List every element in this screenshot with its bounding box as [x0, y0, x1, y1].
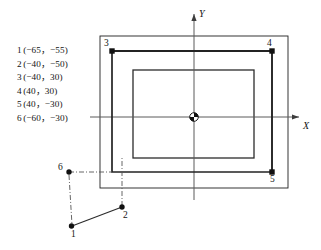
y-axis-arrow-icon — [191, 14, 196, 21]
x-axis-arrow-icon — [292, 114, 299, 119]
approach-line-6-1 — [69, 175, 72, 225]
point-label-2: 2 — [123, 210, 128, 220]
tool-path-3-4-5 — [112, 51, 272, 172]
point-label-6: 6 — [58, 162, 63, 172]
diagram-canvas: 1(−65，−55) 2(−40，−50) 3(−40，30) 4(40，30)… — [0, 0, 321, 250]
point-label-1: 1 — [71, 229, 76, 239]
tool-path-contour-close — [112, 51, 272, 172]
point-marker-4 — [269, 48, 274, 53]
point-marker-3 — [109, 48, 114, 53]
approach-line-1-2 — [72, 207, 122, 226]
origin-marker-icon — [190, 113, 199, 122]
point-label-5: 5 — [270, 174, 275, 184]
x-axis-label: X — [303, 120, 309, 131]
technical-drawing — [0, 0, 321, 250]
y-axis-label: Y — [199, 8, 205, 19]
point-label-3: 3 — [104, 38, 109, 48]
point-label-4: 4 — [267, 38, 272, 48]
point-marker-6 — [66, 169, 71, 174]
point-marker-2 — [119, 204, 124, 209]
point-marker-1 — [69, 223, 74, 228]
